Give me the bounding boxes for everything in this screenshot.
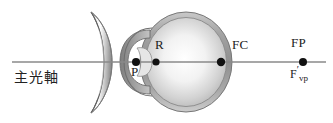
optics-eye-diagram: R P FC FP F′vp 主光軸 (0, 0, 333, 123)
label-far-point-FP: FP (291, 36, 306, 49)
label-vertex-focus-f-prime-vp: F′vp (290, 68, 308, 80)
point-FP (299, 58, 307, 66)
diagram-canvas (0, 0, 333, 123)
label-principal-point-P: P (131, 65, 138, 78)
label-far-center-FC: FC (232, 38, 248, 51)
point-FC (217, 58, 225, 66)
point-R (152, 58, 159, 65)
label-vertex-focus-subscript: vp (299, 73, 308, 83)
label-retina-point-R: R (155, 38, 164, 51)
label-principal-optical-axis-cjk: 主光軸 (14, 70, 59, 84)
label-vertex-focus-letter: F (290, 67, 297, 81)
